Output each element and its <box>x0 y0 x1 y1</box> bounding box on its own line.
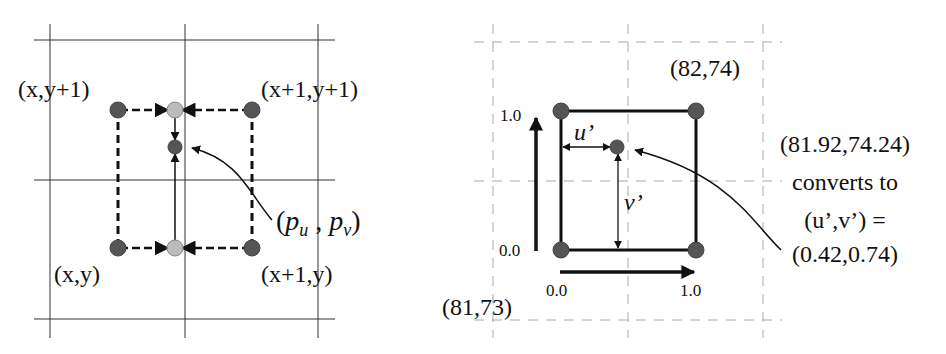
corner-dot-81-74 <box>553 103 569 119</box>
sample-point-dot <box>610 140 624 154</box>
sample-point-dot <box>168 140 182 154</box>
label-u-prime: u’ <box>574 119 594 145</box>
pointer-curve <box>192 148 272 220</box>
right-diagram: (82,74) (81,73) 1.0 0.0 0.0 1.0 u’ v’ (8… <box>442 24 910 338</box>
annotation-line-1: (81.92,74.24) <box>780 131 910 157</box>
corner-dot-top-left <box>110 102 126 118</box>
corner-dot-81-73 <box>553 242 569 258</box>
label-top-right: (x+1,y+1) <box>261 76 358 102</box>
corner-dot-top-right <box>244 102 260 118</box>
interp-dot-top <box>167 102 183 118</box>
bilinear-interpolation-figure: (x,y+1) (x+1,y+1) (x,y) (x+1,y) (pu , pv… <box>0 0 946 354</box>
annotation-line-3: (u’,v’) = <box>804 207 886 233</box>
label-v-prime: v’ <box>624 189 643 215</box>
tick-v-0: 0.0 <box>499 241 520 260</box>
label-81-73: (81,73) <box>442 294 512 320</box>
label-sample-point: (pu , pv) <box>276 205 361 240</box>
interp-dot-bottom <box>167 240 183 256</box>
conversion-annotation: (81.92,74.24) converts to (u’,v’) = (0.4… <box>780 131 910 267</box>
label-top-left: (x,y+1) <box>18 76 90 102</box>
corner-dot-bottom-left <box>110 240 126 256</box>
grid-lines <box>34 24 335 338</box>
label-bottom-right: (x+1,y) <box>261 261 333 287</box>
label-bottom-left: (x,y) <box>54 261 100 287</box>
left-diagram: (x,y+1) (x+1,y+1) (x,y) (x+1,y) (pu , pv… <box>18 24 361 338</box>
pointer-curve <box>635 150 781 250</box>
tick-u-0: 0.0 <box>546 281 567 300</box>
corner-dot-82-74 <box>688 103 704 119</box>
tick-u-1: 1.0 <box>680 281 701 300</box>
corner-dot-82-73 <box>688 242 704 258</box>
tick-v-1: 1.0 <box>500 106 521 125</box>
annotation-line-2: converts to <box>792 169 898 195</box>
corner-dot-bottom-right <box>244 240 260 256</box>
annotation-line-4: (0.42,0.74) <box>792 241 898 267</box>
label-82-74: (82,74) <box>670 55 740 81</box>
